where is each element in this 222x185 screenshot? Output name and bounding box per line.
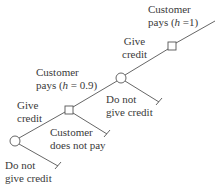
label-lower-give-credit: Give credit <box>17 99 42 124</box>
label-text: pays ( <box>148 16 175 28</box>
chance-node-2 <box>116 73 126 83</box>
decision-node-1 <box>65 106 73 114</box>
label-mid-customer-pays: Customer pays (h = 0.9) <box>36 66 97 91</box>
label-line: credit <box>17 112 42 125</box>
label-line: Customer <box>36 66 97 79</box>
label-lower-do-not-give: Do not give credit <box>5 159 52 184</box>
label-line: pays (h = 0.9) <box>36 79 97 92</box>
label-line: Do not <box>106 93 153 106</box>
label-line: Give <box>122 35 147 48</box>
label-line: Give <box>17 99 42 112</box>
terminal-tick-c1 <box>55 162 61 169</box>
label-line: Do not <box>5 159 52 172</box>
label-line: does not pay <box>50 139 106 152</box>
label-text: pays ( <box>36 79 63 91</box>
label-line: give credit <box>106 106 153 119</box>
label-top-customer-pays: Customer pays (h =1) <box>148 3 198 28</box>
label-line: credit <box>122 48 147 61</box>
label-customer-does-not-pay: Customer does not pay <box>50 126 106 151</box>
label-line: give credit <box>5 172 52 185</box>
label-text: = 0.9) <box>68 79 97 91</box>
label-upper-do-not-give: Do not give credit <box>106 93 153 118</box>
chance-node-1 <box>10 136 20 146</box>
label-line: Customer <box>148 3 198 16</box>
label-line: Customer <box>50 126 106 139</box>
label-upper-give-credit: Give credit <box>122 35 147 60</box>
label-text: =1) <box>180 16 198 28</box>
decision-node-2 <box>168 42 176 50</box>
terminal-tick-c2 <box>156 98 162 105</box>
label-line: pays (h =1) <box>148 16 198 29</box>
